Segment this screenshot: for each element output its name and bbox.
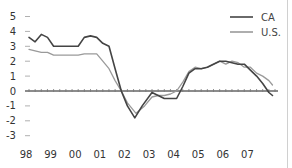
x-tick-label: 01	[93, 149, 106, 160]
x-tick-label: 99	[44, 149, 57, 160]
y-axis: 543210-1-2-3	[6, 11, 30, 141]
series-group	[29, 34, 273, 117]
y-tick-label: 4	[10, 26, 16, 37]
series-line-us	[29, 49, 273, 113]
line-chart: 543210-1-2-3 98990001020304050607 CAU.S.	[0, 0, 292, 168]
legend-label: CA	[261, 12, 275, 23]
x-axis: 98990001020304050607	[20, 149, 254, 160]
y-tick-label: 1	[10, 71, 16, 82]
y-tick-label: 3	[10, 41, 16, 52]
series-line-ca	[29, 34, 273, 117]
y-tick-label: -3	[6, 130, 16, 141]
x-tick-label: 03	[143, 149, 156, 160]
y-tick-label: 0	[10, 86, 16, 97]
x-tick-label: 02	[118, 149, 131, 160]
y-tick-label: -1	[6, 100, 16, 111]
x-tick-label: 05	[192, 149, 205, 160]
x-tick-label: 06	[216, 149, 229, 160]
y-tick-label: 5	[10, 11, 16, 22]
y-tick-label: -2	[6, 115, 16, 126]
x-tick-label: 07	[241, 149, 254, 160]
legend-label: U.S.	[261, 27, 281, 38]
zero-axis-line	[25, 89, 278, 92]
x-tick-label: 00	[69, 149, 82, 160]
legend: CAU.S.	[230, 12, 281, 38]
x-tick-label: 98	[20, 149, 33, 160]
y-tick-label: 2	[10, 56, 16, 67]
x-tick-label: 04	[167, 149, 180, 160]
